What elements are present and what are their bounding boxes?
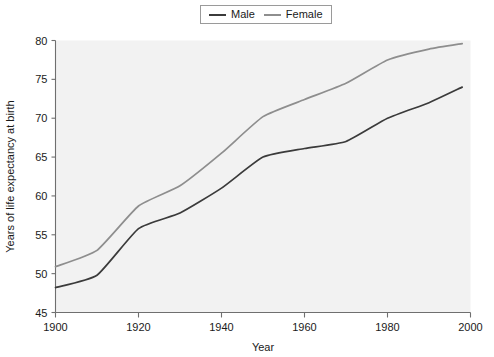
y-tick-label: 75 <box>35 73 47 85</box>
life-expectancy-chart: Male Female 4550556065707580 19001920194… <box>0 0 494 357</box>
y-axis-ticks: 4550556065707580 <box>35 35 55 319</box>
y-tick-label: 50 <box>35 268 47 280</box>
x-tick-label: 1980 <box>375 321 399 333</box>
x-tick-label: 1940 <box>209 321 233 333</box>
x-axis-title: Year <box>252 341 275 353</box>
plot-background <box>56 41 471 313</box>
y-axis-title: Years of life expectancy at birth <box>4 100 16 252</box>
y-tick-label: 60 <box>35 190 47 202</box>
x-tick-label: 2000 <box>458 321 482 333</box>
y-tick-label: 45 <box>35 307 47 319</box>
y-tick-label: 70 <box>35 112 47 124</box>
plot-area: 4550556065707580 19001920194019601980200… <box>0 0 494 357</box>
x-tick-label: 1960 <box>292 321 316 333</box>
y-tick-label: 80 <box>35 35 47 47</box>
y-tick-label: 65 <box>35 151 47 163</box>
x-axis-ticks: 190019201940196019802000 <box>43 313 482 333</box>
x-tick-label: 1900 <box>43 321 67 333</box>
x-tick-label: 1920 <box>126 321 150 333</box>
y-tick-label: 55 <box>35 229 47 241</box>
